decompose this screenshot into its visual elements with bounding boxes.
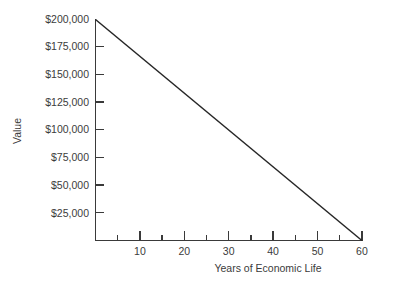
y-axis-ticks bbox=[96, 47, 104, 213]
x-tick-label-10: 10 bbox=[134, 245, 146, 257]
y-tick-label-100000: $100,000 bbox=[45, 123, 89, 135]
y-tick-label-25000: $25,000 bbox=[51, 207, 89, 219]
depreciation-chart: $25,000 $50,000 $75,000 $100,000 $125,00… bbox=[0, 0, 394, 285]
y-tick-label-125000: $125,000 bbox=[45, 96, 89, 108]
y-tick-label-175000: $175,000 bbox=[45, 40, 89, 52]
data-series-straight-line-depreciation bbox=[96, 20, 362, 241]
x-axis-title: Years of Economic Life bbox=[214, 262, 321, 274]
x-tick-label-50: 50 bbox=[312, 245, 324, 257]
x-tick-label-60: 60 bbox=[356, 245, 368, 257]
depreciation-line bbox=[96, 20, 362, 241]
y-axis-tick-labels: $25,000 $50,000 $75,000 $100,000 $125,00… bbox=[45, 13, 89, 218]
x-tick-label-40: 40 bbox=[267, 245, 279, 257]
x-tick-label-30: 30 bbox=[223, 245, 235, 257]
x-tick-label-20: 20 bbox=[178, 245, 190, 257]
y-tick-label-75000: $75,000 bbox=[51, 151, 89, 163]
y-tick-label-50000: $50,000 bbox=[51, 179, 89, 191]
y-tick-label-200000: $200,000 bbox=[45, 13, 89, 25]
x-axis-tick-labels: 10 20 30 40 50 60 bbox=[134, 245, 368, 257]
y-axis-title: Value bbox=[11, 118, 23, 144]
y-tick-label-150000: $150,000 bbox=[45, 68, 89, 80]
chart-canvas: $25,000 $50,000 $75,000 $100,000 $125,00… bbox=[0, 0, 394, 285]
